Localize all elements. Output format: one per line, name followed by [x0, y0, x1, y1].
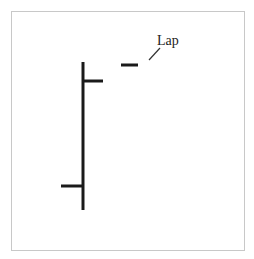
lap-label: Lap — [157, 34, 179, 48]
leader-line — [149, 48, 160, 60]
clipped-caption — [11, 254, 245, 259]
bar-diagram — [0, 0, 254, 259]
